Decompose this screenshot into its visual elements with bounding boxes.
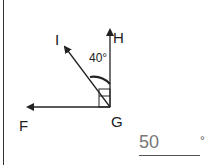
label-g: G bbox=[111, 114, 123, 129]
label-f: F bbox=[19, 118, 28, 133]
label-i: I bbox=[55, 32, 59, 47]
angle-diagram bbox=[0, 0, 220, 165]
degree-unit: ° bbox=[200, 134, 205, 148]
answer-input[interactable]: 50 bbox=[139, 132, 159, 153]
given-angle-label: 40° bbox=[89, 52, 107, 64]
label-h: H bbox=[113, 30, 124, 45]
angle-arc bbox=[90, 77, 110, 84]
answer-underline bbox=[139, 155, 200, 156]
